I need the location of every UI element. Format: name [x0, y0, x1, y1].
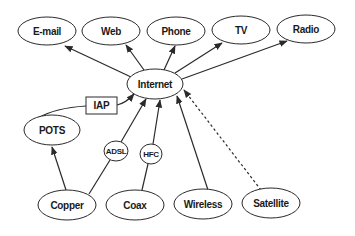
node-phone-label: Phone: [161, 26, 191, 37]
node-email: E-mail: [18, 17, 76, 45]
node-phone: Phone: [147, 17, 205, 45]
node-internet: Internet: [127, 69, 183, 99]
node-radio-label: Radio: [293, 24, 319, 35]
node-internet-label: Internet: [138, 79, 173, 90]
edges-outputs: [65, 41, 287, 79]
edge-wireless-internet: [177, 96, 208, 190]
node-wireless-label: Wireless: [184, 199, 223, 210]
node-coax-label: Coax: [123, 200, 147, 211]
node-copper-label: Copper: [50, 200, 84, 211]
node-pots-label: POTS: [39, 125, 66, 136]
node-web-label: Web: [101, 26, 121, 37]
node-copper: Copper: [38, 190, 96, 220]
edge-satellite-internet: [184, 90, 261, 190]
node-adsl-label: ADSL: [106, 147, 127, 156]
edge-internet-phone: [164, 46, 175, 70]
edge-internet-radio: [182, 41, 287, 79]
edge-coax-hfc: [142, 164, 148, 190]
node-satellite: Satellite: [242, 188, 300, 218]
node-adsl: ADSL: [104, 141, 128, 161]
node-tv: TV: [212, 16, 270, 44]
node-coax: Coax: [106, 190, 164, 220]
edge-iap-internet: [117, 94, 134, 105]
edge-copper-pots: [52, 147, 66, 190]
node-tv-label: TV: [235, 25, 248, 36]
edge-copper-adsl: [89, 160, 110, 194]
node-wireless: Wireless: [174, 189, 232, 219]
edge-internet-web: [126, 45, 144, 70]
node-web: Web: [82, 17, 140, 45]
node-iap: IAP: [86, 97, 117, 114]
node-radio: Radio: [277, 15, 335, 43]
network-diagram: E-mail Web Phone TV Radio Internet IAP P…: [0, 0, 355, 236]
edge-internet-tv: [175, 43, 222, 73]
node-satellite-label: Satellite: [253, 198, 289, 209]
edges-inputs: [38, 90, 261, 194]
node-email-label: E-mail: [33, 26, 62, 37]
edge-hfc-internet: [153, 100, 160, 144]
node-pots: POTS: [24, 115, 80, 145]
edge-internet-email: [65, 46, 131, 77]
node-hfc: HFC: [140, 144, 162, 164]
edge-adsl-internet: [121, 99, 146, 142]
node-iap-label: IAP: [94, 100, 110, 111]
node-hfc-label: HFC: [143, 150, 159, 159]
